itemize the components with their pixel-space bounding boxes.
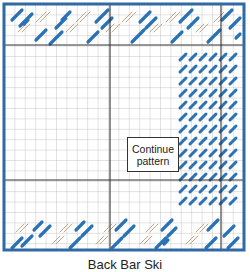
callout-line-1: Continue [128, 143, 178, 155]
chart-caption: Back Bar Ski [0, 257, 250, 272]
continue-pattern-callout: Continue pattern [127, 137, 179, 172]
callout-line-2: pattern [128, 155, 178, 167]
